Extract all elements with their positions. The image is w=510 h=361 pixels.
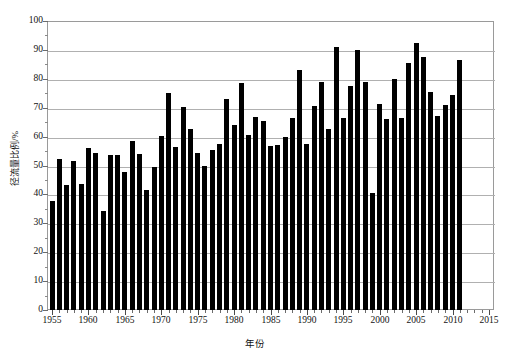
- y-tick-label: 60: [3, 132, 43, 142]
- y-tick-mark: [43, 79, 48, 80]
- x-minor-tick-mark: [81, 310, 82, 313]
- x-minor-tick-mark: [358, 310, 359, 313]
- x-minor-tick-mark: [263, 310, 264, 313]
- bar: [57, 159, 62, 310]
- x-minor-tick-mark: [372, 310, 373, 313]
- x-minor-tick-mark: [190, 310, 191, 313]
- x-tick-label: 2015: [467, 315, 510, 325]
- y-minor-tick-mark: [45, 296, 48, 297]
- bar: [399, 118, 404, 310]
- x-minor-tick-mark: [241, 310, 242, 313]
- x-minor-tick-mark: [467, 310, 468, 313]
- runoff-ratio-bar-chart: 径流量比例/% 0102030405060708090100 195519601…: [0, 0, 510, 361]
- y-tick-label: 50: [3, 161, 43, 171]
- bar: [341, 118, 346, 310]
- y-tick-label: 0: [3, 305, 43, 315]
- x-minor-tick-mark: [351, 310, 352, 313]
- y-minor-tick-mark: [45, 151, 48, 152]
- y-minor-tick-mark: [45, 64, 48, 65]
- bar: [122, 172, 127, 310]
- bar: [188, 129, 193, 310]
- bar: [261, 121, 266, 310]
- x-minor-tick-mark: [409, 310, 410, 313]
- bar: [406, 63, 411, 310]
- x-minor-tick-mark: [460, 310, 461, 313]
- bar: [224, 99, 229, 310]
- x-minor-tick-mark: [314, 310, 315, 313]
- bar: [304, 144, 309, 310]
- x-minor-tick-mark: [154, 310, 155, 313]
- y-tick-label: 70: [3, 103, 43, 113]
- bar: [435, 116, 440, 310]
- bar: [101, 211, 106, 310]
- bar: [202, 166, 207, 310]
- bar: [363, 82, 368, 310]
- bars-container: [47, 21, 494, 310]
- bar: [377, 104, 382, 310]
- bar: [283, 137, 288, 310]
- x-minor-tick-mark: [139, 310, 140, 313]
- bar: [443, 105, 448, 310]
- x-minor-tick-mark: [67, 310, 68, 313]
- x-minor-tick-mark: [387, 310, 388, 313]
- bar: [253, 117, 258, 310]
- x-minor-tick-mark: [212, 310, 213, 313]
- bar: [290, 118, 295, 310]
- bar: [246, 135, 251, 310]
- y-tick-mark: [43, 108, 48, 109]
- bar: [210, 150, 215, 310]
- x-minor-tick-mark: [74, 310, 75, 313]
- x-minor-tick-mark: [96, 310, 97, 313]
- bar: [450, 95, 455, 310]
- bar: [297, 70, 302, 310]
- bar: [93, 153, 98, 311]
- bar: [130, 141, 135, 310]
- bar: [239, 83, 244, 310]
- x-minor-tick-mark: [183, 310, 184, 313]
- bar: [144, 190, 149, 310]
- x-minor-tick-mark: [220, 310, 221, 313]
- bar: [71, 161, 76, 310]
- bar: [421, 57, 426, 310]
- y-minor-tick-mark: [45, 122, 48, 123]
- y-tick-mark: [43, 137, 48, 138]
- x-minor-tick-mark: [103, 310, 104, 313]
- y-tick-label: 20: [3, 247, 43, 257]
- y-minor-tick-mark: [45, 93, 48, 94]
- bar: [217, 144, 222, 310]
- x-minor-tick-mark: [431, 310, 432, 313]
- bar: [115, 155, 120, 310]
- y-tick-label: 100: [3, 16, 43, 26]
- x-minor-tick-mark: [474, 310, 475, 313]
- x-minor-tick-mark: [292, 310, 293, 313]
- y-minor-tick-mark: [45, 35, 48, 36]
- bar: [392, 79, 397, 310]
- x-minor-tick-mark: [482, 310, 483, 313]
- y-tick-mark: [43, 281, 48, 282]
- bar: [326, 129, 331, 310]
- y-tick-label: 80: [3, 74, 43, 84]
- x-minor-tick-mark: [249, 310, 250, 313]
- y-tick-mark: [43, 252, 48, 253]
- bar: [457, 60, 462, 310]
- bar: [50, 201, 55, 310]
- bar: [319, 82, 324, 310]
- bar: [195, 153, 200, 311]
- bar: [312, 106, 317, 310]
- y-tick-mark: [43, 194, 48, 195]
- bar: [166, 93, 171, 310]
- y-minor-tick-mark: [45, 180, 48, 181]
- x-minor-tick-mark: [423, 310, 424, 313]
- x-axis-title: 年份: [0, 336, 510, 350]
- x-minor-tick-mark: [147, 310, 148, 313]
- x-minor-tick-mark: [285, 310, 286, 313]
- y-tick-label: 10: [3, 276, 43, 286]
- y-tick-mark: [43, 223, 48, 224]
- y-tick-mark: [43, 310, 48, 311]
- x-minor-tick-mark: [132, 310, 133, 313]
- x-minor-tick-mark: [169, 310, 170, 313]
- bar: [268, 146, 273, 310]
- x-minor-tick-mark: [59, 310, 60, 313]
- y-tick-mark: [43, 21, 48, 22]
- x-minor-tick-mark: [176, 310, 177, 313]
